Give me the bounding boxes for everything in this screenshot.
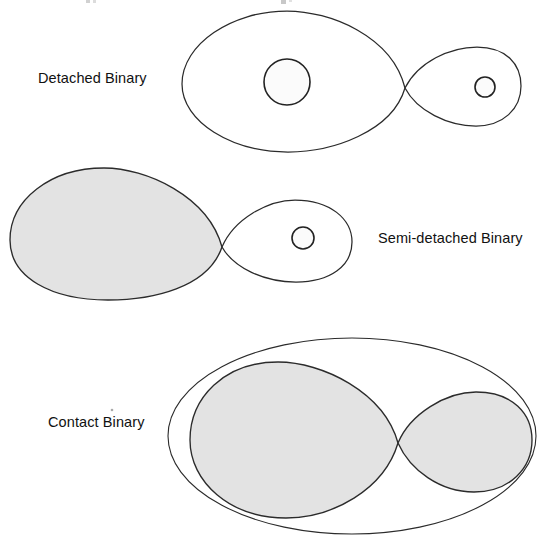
panel-detached-binary: Detached Binary	[38, 11, 521, 152]
panel-contact-binary: Contact Binary	[48, 338, 536, 534]
detached-secondary-roche-lobe	[405, 47, 521, 126]
contact-secondary-roche-lobe-filled	[398, 392, 532, 492]
label-detached-binary: Detached Binary	[38, 70, 147, 86]
semi-detached-secondary-roche-lobe	[222, 200, 352, 282]
binary-star-diagram: Detached Binary Semi-detached Binary Con…	[0, 0, 540, 536]
detached-secondary-star	[475, 77, 495, 97]
semi-detached-secondary-star	[292, 227, 314, 249]
contact-primary-roche-lobe-filled	[190, 362, 398, 518]
detached-primary-star	[264, 59, 310, 105]
label-semi-detached-binary: Semi-detached Binary	[378, 230, 523, 246]
ink-dot-artifact	[111, 409, 114, 412]
top-edge-text-artifact	[86, 0, 292, 4]
panel-semi-detached-binary: Semi-detached Binary	[10, 168, 523, 300]
semi-detached-primary-roche-lobe-filled	[10, 168, 222, 300]
label-contact-binary: Contact Binary	[48, 414, 145, 430]
roche-lobe-figure: Detached Binary Semi-detached Binary Con…	[0, 0, 540, 536]
